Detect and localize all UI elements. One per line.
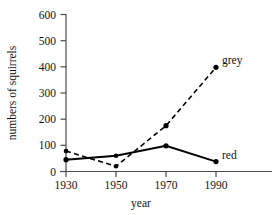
x-tick-label-1950: 1950 bbox=[105, 179, 128, 191]
series-label-red: red bbox=[222, 149, 237, 161]
data-point-red-1970 bbox=[163, 143, 168, 148]
data-point-grey-1930 bbox=[64, 149, 69, 154]
y-tick-label-200: 200 bbox=[39, 113, 57, 125]
data-point-red-1950 bbox=[114, 154, 119, 159]
data-point-grey-1970 bbox=[163, 123, 168, 128]
y-tick-label-100: 100 bbox=[39, 139, 57, 151]
data-point-red-1930 bbox=[63, 157, 68, 162]
y-axis-ticks bbox=[61, 15, 67, 172]
y-tick-label-400: 400 bbox=[39, 61, 57, 73]
x-tick-label-1990: 1990 bbox=[205, 179, 228, 191]
y-tick-label-600: 600 bbox=[39, 9, 57, 21]
series-markers-grey bbox=[64, 65, 219, 169]
chart-canvas: 0 100 200 300 400 500 600 1930 1950 1970… bbox=[0, 0, 277, 215]
x-axis-ticks bbox=[66, 172, 216, 178]
y-tick-label-0: 0 bbox=[50, 166, 56, 178]
x-axis-title: year bbox=[131, 197, 151, 210]
data-point-grey-1990 bbox=[213, 65, 218, 70]
y-axis-title: numbers of squirrels bbox=[6, 45, 19, 140]
x-tick-label-1970: 1970 bbox=[155, 179, 178, 191]
series-line-red bbox=[66, 146, 216, 162]
x-tick-label-1930: 1930 bbox=[55, 179, 78, 191]
data-point-grey-1950 bbox=[114, 164, 119, 169]
series-label-grey: grey bbox=[222, 54, 243, 67]
data-point-red-1990 bbox=[213, 159, 218, 164]
squirrel-population-chart: 0 100 200 300 400 500 600 1930 1950 1970… bbox=[0, 0, 277, 215]
y-tick-label-500: 500 bbox=[39, 35, 57, 47]
y-tick-label-300: 300 bbox=[39, 87, 57, 99]
